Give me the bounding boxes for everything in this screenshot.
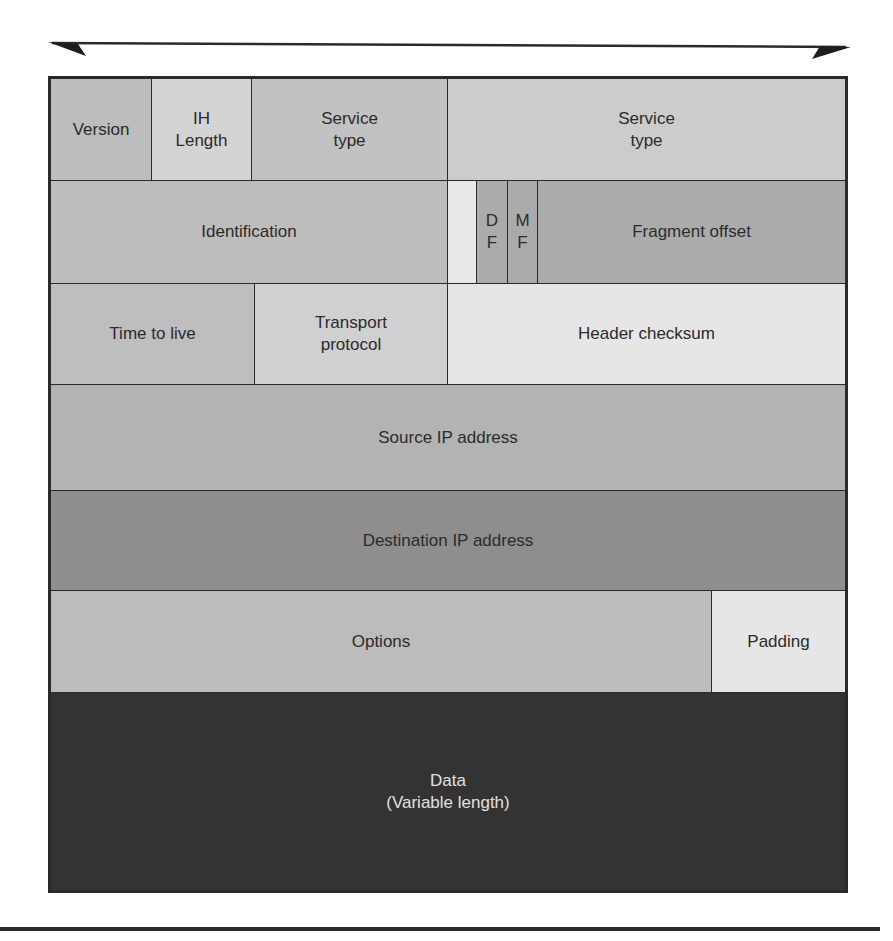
field-label: Data (Variable length) bbox=[386, 770, 509, 814]
field-identification: Identification bbox=[50, 180, 448, 284]
field-label: Options bbox=[352, 631, 411, 653]
field-df-flag: D F bbox=[476, 180, 508, 284]
field-service-type-wide: Service type bbox=[447, 78, 846, 181]
field-label: Destination IP address bbox=[363, 530, 534, 552]
field-label: Transport protocol bbox=[315, 312, 387, 356]
field-label: Identification bbox=[201, 221, 296, 243]
field-transport-protocol: Transport protocol bbox=[254, 283, 448, 385]
field-options: Options bbox=[50, 590, 712, 693]
field-label: Fragment offset bbox=[632, 221, 751, 243]
field-label: Source IP address bbox=[378, 427, 518, 449]
field-label: Padding bbox=[747, 631, 809, 653]
field-padding: Padding bbox=[711, 590, 846, 693]
field-label: Service type bbox=[618, 108, 675, 152]
field-label: Time to live bbox=[109, 323, 195, 345]
field-label: Header checksum bbox=[578, 323, 715, 345]
field-label: D F bbox=[486, 210, 498, 254]
field-data: Data (Variable length) bbox=[50, 692, 846, 891]
field-destination-ip-address: Destination IP address bbox=[50, 490, 846, 591]
field-ih-length: IH Length bbox=[151, 78, 252, 181]
word-width-arrow-icon bbox=[0, 0, 893, 70]
field-service-type: Service type bbox=[251, 78, 448, 181]
bottom-rule-divider bbox=[0, 927, 880, 931]
field-reserved-flag bbox=[447, 180, 477, 284]
field-version: Version bbox=[50, 78, 152, 181]
field-label: M F bbox=[515, 210, 529, 254]
field-label: Version bbox=[73, 119, 130, 141]
field-label: IH Length bbox=[176, 108, 228, 152]
field-fragment-offset: Fragment offset bbox=[537, 180, 846, 284]
field-source-ip-address: Source IP address bbox=[50, 384, 846, 491]
field-header-checksum: Header checksum bbox=[447, 283, 846, 385]
field-mf-flag: M F bbox=[507, 180, 538, 284]
field-label: Service type bbox=[321, 108, 378, 152]
field-time-to-live: Time to live bbox=[50, 283, 255, 385]
